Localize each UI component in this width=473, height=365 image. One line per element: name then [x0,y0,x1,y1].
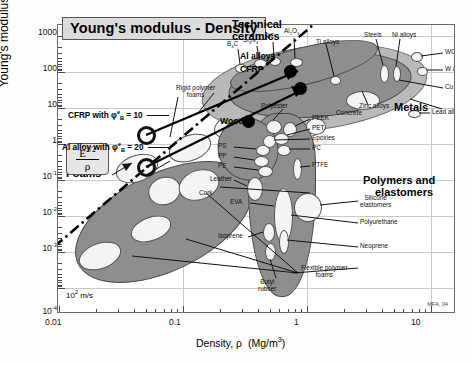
label-b4c: B4C [227,41,238,50]
x-tick-001: 0.01 [45,317,62,327]
label-cu-alloys: Cu alloys [445,84,455,91]
label-concrete: Concrete [336,110,362,117]
annotation-al-alloy-phi: Al alloy with φeB = 20 [62,141,170,153]
label-ps: PS [218,143,227,150]
label-wc: WC [445,49,455,56]
label-neoprene: Neoprene [360,243,388,250]
label-leather: Leather [210,176,232,183]
label-steels: Steels [364,32,382,39]
label-rigid-polymer-foams: Rigid polymerfoams [176,85,215,99]
label-w-alloys: W alloys [445,66,455,73]
y-tick-1e-4: 10-4 [42,305,57,316]
label-zinc-alloys: Zinc alloys [359,103,389,110]
label-polyurethane: Polyurethane [360,219,398,226]
guideline-denominator: ρ [85,160,91,172]
y-tick-10: 10 [48,99,57,109]
ashby-chart: 1000 100 10 1 10-1 10-2 10-3 10-4 Young'… [0,0,473,365]
label-ptfe: PTFE [312,162,328,169]
label-peek: PEEK [312,115,329,122]
label-polyester: Polyester [261,103,288,110]
label-flexible-polymer-foams: Flexible polymerfoams [301,265,348,279]
family-label-polymers: Polymers andelastomers [363,175,435,198]
y-tick-100: 100 [43,63,57,73]
label-butyl-rubber: Butylrubber [258,279,276,293]
label-ni-alloys: Ni alloys [392,32,416,39]
label-epoxies: Epoxies [312,135,335,142]
label-pe: PE [218,163,227,170]
y-tick-1e-3: 10-3 [42,242,57,253]
x-tick-1: 1 [294,317,299,327]
family-label-metals: Metals [394,102,428,114]
label-pet: PET [312,125,324,132]
label-lead-alloys: Lead alloys [432,109,455,116]
label-ti-alloys: Ti alloys [316,39,339,46]
y-tick-1e-2: 10-2 [42,206,57,217]
x-axis-label: Density, ρ (Mg/m3) [196,336,285,349]
family-label-wood: Wood [220,117,244,126]
y-tick-1000: 1000 [38,27,57,37]
family-label-al-alloys: Al alloys [240,52,275,61]
label-pc: PC [312,145,321,152]
annotation-cfrp-phi: CFRP with φeB = 10 [68,109,169,121]
guideline-speed-note: 102 m/s [66,289,93,300]
family-label-cfrp: CFRP [240,65,263,74]
label-al2o3: Al2O3 [284,28,300,37]
y-tick-1e-1: 10-1 [42,170,57,181]
label-cork: Cork [199,190,213,197]
family-label-technical-ceramics: Technicalceramics [232,19,282,42]
label-isoprene: Isoprene [218,233,243,240]
x-tick-10: 10 [411,317,420,327]
y-axis-label: Young's modulus, E (GPa) [0,0,11,112]
x-tick-01: 0.1 [169,317,181,327]
label-pp: PP [218,153,227,160]
label-eva: EVA [230,199,242,206]
